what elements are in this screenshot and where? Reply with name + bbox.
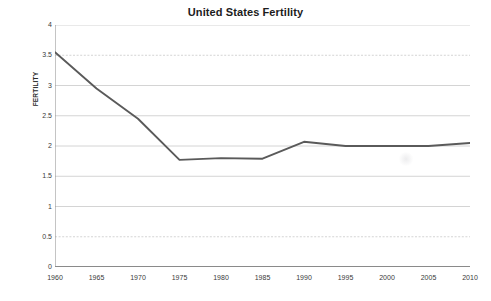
- y-tick-label: 2: [16, 142, 52, 150]
- x-tick-label: 1990: [284, 274, 324, 281]
- x-tick-label: 1980: [201, 274, 241, 281]
- data-series-group: [55, 52, 470, 160]
- y-tick-label: 4: [16, 21, 52, 29]
- y-tick-label: 1.5: [16, 172, 52, 180]
- y-tick-label: 3.5: [16, 51, 52, 59]
- x-tick-label: 1965: [77, 274, 117, 281]
- y-tick-label: 1: [16, 203, 52, 211]
- y-tick-label: 0.5: [16, 233, 52, 241]
- series-line-fertility: [55, 52, 470, 160]
- gridlines: [55, 25, 470, 237]
- x-tick-label: 1985: [243, 274, 283, 281]
- x-tick-label: 1960: [35, 274, 75, 281]
- plot-area: [55, 25, 470, 267]
- y-tick-label: 2.5: [16, 112, 52, 120]
- x-tick-label: 1975: [160, 274, 200, 281]
- y-tick-label: 0: [16, 263, 52, 271]
- x-tick-label: 1970: [118, 274, 158, 281]
- chart-title: United States Fertility: [0, 6, 491, 18]
- chart-plot-svg: [55, 25, 470, 267]
- x-tick-label: 2005: [409, 274, 449, 281]
- y-axis-tick-labels: 00.511.522.533.54: [12, 25, 52, 267]
- chart-container: United States Fertility FERTILITY 00.511…: [0, 0, 491, 301]
- x-tick-label: 1995: [326, 274, 366, 281]
- x-tick-label: 2000: [367, 274, 407, 281]
- x-axis-tick-labels: 1960196519701975198019851990199520002005…: [55, 274, 470, 288]
- y-tick-label: 3: [16, 82, 52, 90]
- x-tick-label: 2010: [450, 274, 490, 281]
